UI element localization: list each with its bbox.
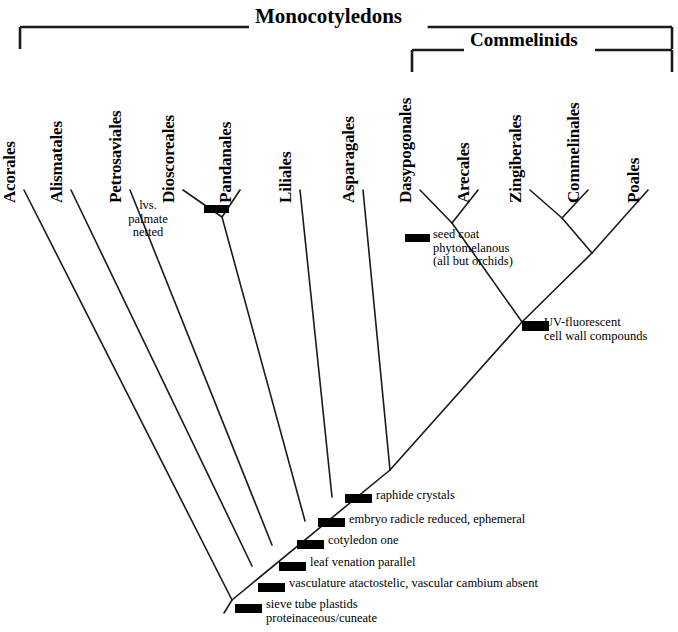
- synapomorphy-bar-sieve-tube-plastids: [235, 604, 262, 613]
- cladogram-figure: AcoralesAlismatalesPetrosavialesDioscore…: [0, 0, 678, 632]
- synapomorphy-bar-embryo-radicle: [318, 518, 345, 527]
- annotation-lvs-palmate-netted: lvs.palmatenetted: [128, 199, 168, 240]
- annotation-line: netted: [128, 226, 168, 240]
- tip-label-dioscoreales: Dioscoreales: [159, 115, 179, 203]
- annotation-seed-coat: seed coatphytomelanous(all but orchids): [433, 228, 513, 269]
- annotation-line: palmate: [128, 213, 168, 227]
- tip-label-pandanales: Pandanales: [216, 122, 236, 203]
- tip-label-zingiberales: Zingiberales: [506, 115, 526, 203]
- annotation-embryo-radicle: embryo radicle reduced, ephemeral: [349, 513, 525, 527]
- annotation-uv-fluorescent: UV-fluorescentcell wall compounds: [544, 316, 647, 343]
- branch-commelinid-to-backbone: [390, 322, 522, 470]
- annotation-line: UV-fluorescent: [544, 316, 647, 330]
- tip-label-dasypogonales: Dasypogonales: [396, 98, 416, 203]
- branch-zingiberales-commelinales-stem: [562, 218, 592, 253]
- annotation-sieve-tube-plastids: sieve tube plastidsproteinaceous/cuneate: [266, 598, 377, 625]
- synapomorphy-bar-cotyledon-one: [297, 540, 324, 549]
- synapomorphy-bar-raphide-crystals: [345, 494, 372, 503]
- annotation-line: cotyledon one: [328, 534, 398, 548]
- annotation-vasculature: vasculature atactostelic, vascular cambi…: [289, 577, 538, 591]
- branch-commelinid-stem: [522, 253, 592, 322]
- tip-label-liliales: Liliales: [276, 152, 296, 203]
- branch-dasypogonales-branch: [420, 190, 452, 223]
- annotation-raphide-crystals: raphide crystals: [376, 489, 455, 503]
- annotation-line: embryo radicle reduced, ephemeral: [349, 513, 525, 527]
- synapomorphy-bar-leaf-venation: [279, 562, 306, 571]
- annotation-line: cell wall compounds: [544, 330, 647, 344]
- annotation-line: seed coat: [433, 228, 513, 242]
- branch-dioscoreales-pandanales-stem: [222, 217, 305, 521]
- annotation-line: vasculature atactostelic, vascular cambi…: [289, 577, 538, 591]
- annotation-line: phytomelanous: [433, 242, 513, 256]
- annotation-cotyledon-one: cotyledon one: [328, 534, 398, 548]
- tip-label-alismatales: Alismatales: [47, 121, 67, 203]
- tip-label-poales: Poales: [624, 158, 644, 203]
- branch-layer: [24, 190, 648, 613]
- clade-label-commelinids: Commelinids: [470, 29, 578, 51]
- branch-acorales-branch: [24, 190, 232, 600]
- branch-petrosaviales-branch: [130, 190, 272, 545]
- branch-alismatales-branch: [71, 190, 252, 566]
- tip-label-petrosaviales: Petrosaviales: [106, 111, 126, 203]
- annotation-line: raphide crystals: [376, 489, 455, 503]
- annotation-line: proteinaceous/cuneate: [266, 612, 377, 626]
- annotation-leaf-venation: leaf venation parallel: [310, 556, 416, 570]
- annotation-line: (all but orchids): [433, 255, 513, 269]
- synapomorphy-bar-seed-coat: [405, 234, 430, 242]
- branch-liliales-branch: [300, 190, 332, 497]
- tip-label-arecales: Arecales: [454, 143, 474, 203]
- tip-label-asparagales: Asparagales: [339, 116, 359, 203]
- tip-label-commelinales: Commelinales: [564, 102, 584, 203]
- branch-asparagales-branch: [363, 190, 390, 470]
- tip-label-acorales: Acorales: [0, 141, 20, 203]
- clade-label-monocotyledons: Monocotyledons: [255, 4, 402, 29]
- branch-zingiberales-branch: [530, 190, 562, 218]
- clade-bracket-commelinids: [412, 50, 672, 72]
- annotation-line: leaf venation parallel: [310, 556, 416, 570]
- annotation-line: lvs.: [128, 199, 168, 213]
- synapomorphy-bar-lvs-palmate-netted: [204, 205, 229, 213]
- annotation-line: sieve tube plastids: [266, 598, 377, 612]
- synapomorphy-bar-vasculature: [258, 583, 285, 592]
- branch-backbone-root: [224, 600, 232, 613]
